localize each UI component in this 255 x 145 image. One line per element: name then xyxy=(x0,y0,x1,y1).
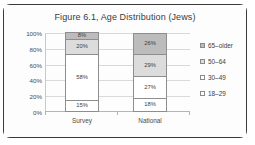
y-axis-tick-label: 20% xyxy=(6,93,42,100)
legend-label: 18–29 xyxy=(208,90,226,97)
x-axis-tick xyxy=(45,112,46,115)
x-axis-category-survey: Survey xyxy=(52,117,112,124)
legend-label: 65–older xyxy=(208,42,233,49)
legend-swatch-icon xyxy=(200,91,205,96)
legend-item-30-49[interactable]: 30–49 xyxy=(200,69,248,85)
x-axis-tick xyxy=(189,112,190,115)
legend-item-65-older[interactable]: 65–older xyxy=(200,37,248,53)
bar-segment-value: 26% xyxy=(144,41,156,47)
y-axis-tick-label: 100% xyxy=(6,30,42,37)
bar-segment[interactable]: 15% xyxy=(65,100,99,112)
legend-swatch-icon xyxy=(200,43,205,48)
y-axis-tick-label: 0% xyxy=(6,109,42,116)
bar-segment-value: 15% xyxy=(76,103,88,109)
plot-area: 8%20%58%15% 26%29%27%18% xyxy=(45,33,190,112)
x-axis-category-national: National xyxy=(120,117,180,124)
chart-canvas: Figure 6.1, Age Distribution (Jews) 100%… xyxy=(4,5,246,137)
chart-frame: Figure 6.1, Age Distribution (Jews) 100%… xyxy=(3,4,247,138)
y-axis-labels: 100% 80% 60% 40% 20% 0% xyxy=(4,33,42,112)
bar-segment-value: 29% xyxy=(144,63,156,69)
chart-legend: 65–older 50–64 30–49 18–29 xyxy=(200,37,248,101)
legend-swatch-icon xyxy=(200,59,205,64)
bar-segment[interactable]: 26% xyxy=(133,33,167,54)
stacked-bar-national[interactable]: 26%29%27%18% xyxy=(133,33,167,112)
stacked-bar-survey[interactable]: 8%20%58%15% xyxy=(65,32,99,112)
y-axis-tick-label: 60% xyxy=(6,61,42,68)
y-axis-line xyxy=(45,33,46,112)
chart-title: Figure 6.1, Age Distribution (Jews) xyxy=(4,12,246,22)
legend-label: 50–64 xyxy=(208,58,226,65)
bar-segment[interactable]: 29% xyxy=(133,54,167,77)
bar-segment[interactable]: 27% xyxy=(133,76,167,97)
x-axis-tick xyxy=(117,112,118,115)
bar-segment[interactable]: 18% xyxy=(133,98,167,112)
legend-item-50-64[interactable]: 50–64 xyxy=(200,53,248,69)
bar-segment[interactable]: 58% xyxy=(65,54,99,100)
bar-segment[interactable]: 20% xyxy=(65,39,99,55)
legend-item-18-29[interactable]: 18–29 xyxy=(200,85,248,101)
y-axis-tick-label: 80% xyxy=(6,45,42,52)
y-axis-tick-label: 40% xyxy=(6,77,42,84)
bar-segment-value: 20% xyxy=(76,44,88,50)
legend-swatch-icon xyxy=(200,75,205,80)
legend-label: 30–49 xyxy=(208,74,226,81)
bar-segment-value: 18% xyxy=(144,102,156,108)
bar-segment-value: 27% xyxy=(144,85,156,91)
bar-segment-value: 58% xyxy=(76,75,88,81)
